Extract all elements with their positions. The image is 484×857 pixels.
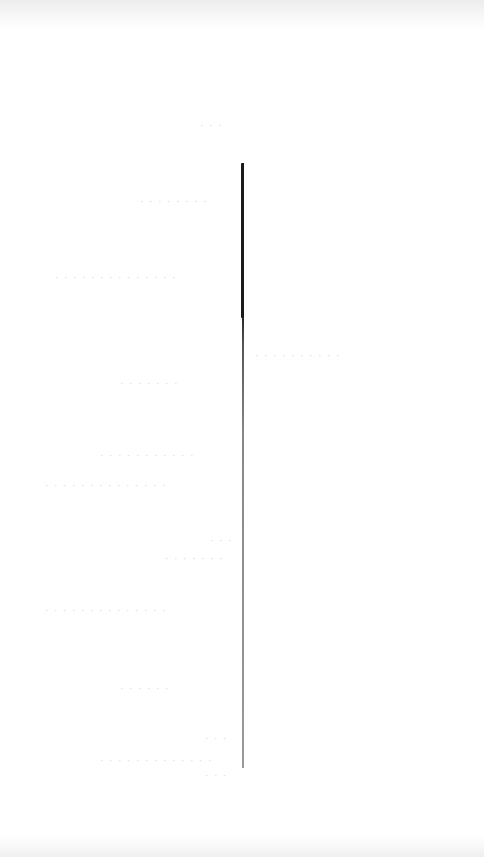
footer-block: · · · · · · · · · · · · ·	[100, 755, 212, 768]
text-line: · · · · · ·	[120, 683, 169, 696]
text-line: · · · · · · · · · · · · · ·	[55, 272, 176, 285]
text-line: · · · · · · · · · · ·	[100, 450, 194, 463]
text-line: · · · · · · ·	[120, 378, 178, 391]
scan-top-shadow	[0, 0, 484, 30]
text-line: · · · · · · · · · · · · · ·	[45, 605, 166, 618]
footer-block: · · ·	[205, 770, 227, 783]
text-line: · · · · · · · · · ·	[255, 350, 340, 363]
footer-block: · · ·	[205, 733, 227, 746]
title-line: · · · · · · · ·	[140, 196, 207, 209]
text-line: · · · · · · · · · · · · · ·	[45, 480, 166, 493]
scan-bottom-shadow	[0, 835, 484, 857]
heading-small: · · ·	[200, 120, 222, 133]
center-block: · · ·	[210, 535, 232, 548]
center-block: · · · · · · ·	[165, 553, 223, 566]
vertical-ink-line-thick-segment	[241, 163, 244, 318]
